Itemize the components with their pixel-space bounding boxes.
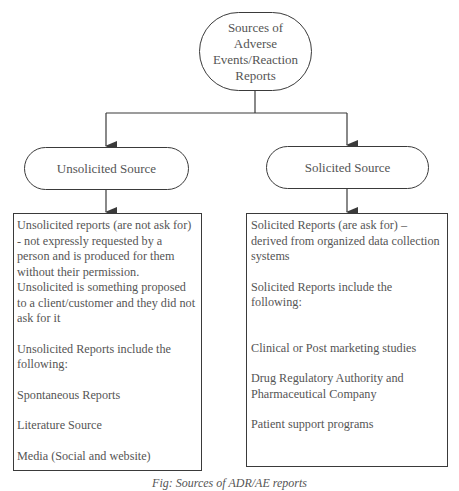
solicited-item: Drug Regulatory Authority and Pharmaceut… [251, 371, 443, 402]
unsolicited-source-label: Unsolicited Source [57, 161, 156, 177]
solicited-item: Clinical or Post marketing studies [251, 341, 443, 357]
unsolicited-description: Unsolicited reports (are not ask for) - … [17, 218, 197, 327]
figure-caption: Fig: Sources of ADR/AE reports [0, 476, 459, 491]
unsolicited-item: Literature Source [17, 418, 197, 434]
unsolicited-details-box: Unsolicited reports (are not ask for) - … [13, 213, 202, 471]
unsolicited-include-intro: Unsolicited Reports include the followin… [17, 342, 197, 373]
root-node: Sources of Adverse Events/Reaction Repor… [199, 12, 312, 91]
unsolicited-item: Media (Social and website) [17, 449, 197, 465]
solicited-item: Patient support programs [251, 417, 443, 433]
solicited-description: Solicited Reports (are ask for) – derive… [251, 218, 443, 265]
solicited-source-node: Solicited Source [266, 146, 429, 189]
solicited-include-intro: Solicited Reports include the following: [251, 280, 443, 311]
root-node-label: Sources of Adverse Events/Reaction Repor… [206, 20, 305, 84]
solicited-source-label: Solicited Source [305, 160, 391, 176]
unsolicited-item: Spontaneous Reports [17, 388, 197, 404]
unsolicited-source-node: Unsolicited Source [24, 147, 189, 190]
solicited-details-box: Solicited Reports (are ask for) – derive… [246, 213, 448, 467]
